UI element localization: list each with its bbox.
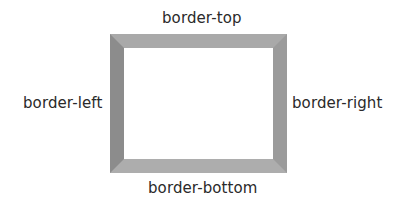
label-border-bottom: border-bottom bbox=[148, 179, 258, 197]
bordered-box bbox=[110, 34, 287, 173]
label-border-left: border-left bbox=[23, 94, 102, 112]
label-border-top: border-top bbox=[162, 9, 242, 27]
label-border-right: border-right bbox=[292, 94, 382, 112]
